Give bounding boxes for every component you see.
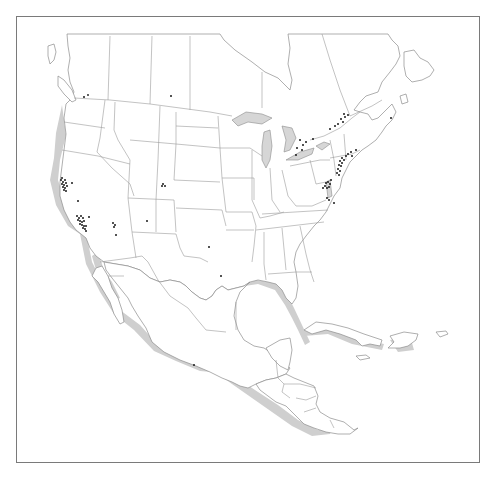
marker[interactable] [146,220,148,222]
marker[interactable] [88,216,90,218]
marker[interactable] [339,160,341,162]
marker[interactable] [208,246,210,248]
marker[interactable] [322,187,324,189]
marker[interactable] [351,155,353,157]
marker[interactable] [338,164,340,166]
marker[interactable] [161,185,163,187]
marker[interactable] [61,183,63,185]
marker[interactable] [83,225,85,227]
marker[interactable] [341,162,343,164]
marker[interactable] [115,234,117,236]
marker[interactable] [337,168,339,170]
marker[interactable] [328,186,330,188]
marker[interactable] [347,153,349,155]
marker[interactable] [64,187,66,189]
marker[interactable] [333,202,335,204]
marker[interactable] [63,189,65,191]
marker[interactable] [112,222,114,224]
marker[interactable] [390,117,392,119]
marker[interactable] [295,154,297,156]
hispaniola [388,332,418,348]
marker[interactable] [343,159,345,161]
marker[interactable] [82,227,84,229]
marker[interactable] [66,185,68,187]
marker[interactable] [336,172,338,174]
puerto-rico [436,331,448,337]
north-america-map [0,0,495,479]
marker[interactable] [87,94,89,96]
marker[interactable] [81,221,83,223]
marker[interactable] [350,151,352,153]
haida-gwaii [48,44,56,64]
marker[interactable] [193,364,195,366]
marker[interactable] [83,220,85,222]
marker[interactable] [80,215,82,217]
marker[interactable] [85,225,87,227]
marker[interactable] [85,230,87,232]
marker[interactable] [81,224,83,226]
marker[interactable] [302,144,304,146]
marker[interactable] [334,125,336,127]
marker[interactable] [329,183,331,185]
newfoundland [404,50,434,82]
marker[interactable] [345,155,347,157]
marker[interactable] [342,121,344,123]
marker[interactable] [77,219,79,221]
marker[interactable] [328,199,330,201]
cape-breton [400,94,408,104]
marker[interactable] [77,200,79,202]
marker[interactable] [76,215,78,217]
marker[interactable] [339,170,341,172]
marker[interactable] [65,182,67,184]
marker[interactable] [326,197,328,199]
marker[interactable] [64,179,66,181]
marker[interactable] [312,138,314,140]
marker[interactable] [330,179,332,181]
marker[interactable] [84,228,86,230]
marker[interactable] [62,181,64,183]
marker[interactable] [60,179,62,181]
marker[interactable] [82,217,84,219]
marker[interactable] [83,96,85,98]
marker[interactable] [79,223,81,225]
marker[interactable] [65,190,67,192]
jamaica [356,355,370,360]
marker[interactable] [340,165,342,167]
marker[interactable] [326,187,328,189]
marker[interactable] [355,149,357,151]
marker[interactable] [164,185,166,187]
marker[interactable] [325,182,327,184]
marker[interactable] [347,114,349,116]
marker[interactable] [340,118,342,120]
marker[interactable] [301,149,303,151]
marker[interactable] [78,217,80,219]
marker[interactable] [114,224,116,226]
marker[interactable] [324,185,326,187]
marker[interactable] [220,275,222,277]
marker[interactable] [338,174,340,176]
marker[interactable] [63,184,65,186]
marker[interactable] [296,147,298,149]
marker[interactable] [113,226,115,228]
marker[interactable] [62,186,64,188]
marker[interactable] [337,123,339,125]
marker[interactable] [71,182,73,184]
marker[interactable] [162,183,164,185]
marker[interactable] [344,116,346,118]
marker[interactable] [327,181,329,183]
marker[interactable] [299,139,301,141]
marker[interactable] [61,177,63,179]
marker[interactable] [341,157,343,159]
marker[interactable] [79,220,81,222]
marker[interactable] [305,141,307,143]
marker[interactable] [170,95,172,97]
marker[interactable] [343,113,345,115]
marker[interactable] [329,128,331,130]
